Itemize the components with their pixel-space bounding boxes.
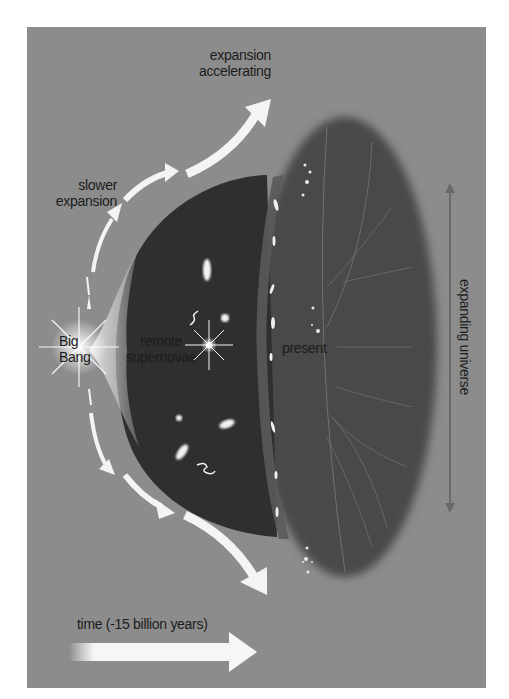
remote-supernovae-label: remote supernovae	[126, 333, 196, 365]
time-label: time (-15 billion years)	[77, 616, 208, 632]
diagram-panel: expansion accelerating slower expansion …	[27, 27, 486, 688]
present-label: present	[282, 340, 327, 356]
diagram-artwork	[27, 27, 486, 688]
big-bang-label: Big Bang	[59, 333, 91, 365]
expanding-universe-arrow	[445, 183, 455, 513]
expansion-accelerating-label: expansion accelerating	[177, 47, 271, 79]
time-arrow	[69, 632, 257, 672]
expanding-universe-label: expanding universe	[457, 279, 473, 395]
slower-expansion-label: slower expansion	[47, 177, 117, 209]
